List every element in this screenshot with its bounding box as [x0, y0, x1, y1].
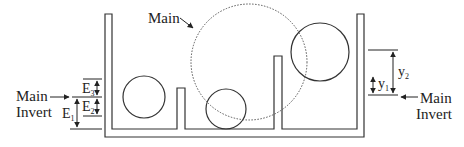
e1-label: E1 [62, 106, 75, 123]
y2-label: y2 [398, 64, 409, 81]
e3-label: E3 [82, 81, 95, 98]
main-invert-right-label-line1: Main [420, 90, 452, 106]
right-dimensions [368, 50, 418, 97]
main-pipe-dotted [191, 4, 307, 120]
branch-pipe-middle [206, 89, 246, 129]
main-arrow-icon [180, 18, 193, 28]
main-invert-right-label-line2: Invert [416, 106, 453, 122]
y1-label: y1 [378, 76, 389, 93]
left-dimensions [50, 79, 102, 129]
branch-pipe-right [291, 23, 349, 81]
branch-pipe-left [123, 76, 165, 118]
channel-diagram: Main E3 E2 E1 Main Invert y2 y1 Main Inv… [0, 0, 464, 147]
main-invert-left-label-line2: Invert [16, 104, 53, 120]
main-label: Main [148, 10, 180, 26]
main-invert-left-label-line1: Main [16, 88, 48, 104]
e2-label: E2 [82, 99, 95, 116]
